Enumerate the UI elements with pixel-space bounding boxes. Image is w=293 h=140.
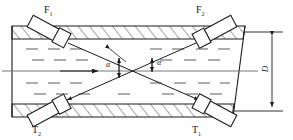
label-transducer-T1: T1 [192,124,201,137]
label-transducer-F2: F2 [196,4,205,17]
label-angle-left: α [106,60,110,69]
diameter-dimension [234,32,283,111]
flow-meter-diagram [0,0,293,140]
label-diameter: D [260,66,270,73]
fluid-marks [26,49,230,94]
pipe-break-edge [233,26,245,117]
label-transducer-T2: T2 [32,124,41,137]
figure-canvas: F1 F2 T2 T1 α α D [0,0,293,140]
label-transducer-F1: F1 [44,4,53,17]
label-angle-right: α [157,58,161,67]
angle-leader-left [110,49,126,62]
